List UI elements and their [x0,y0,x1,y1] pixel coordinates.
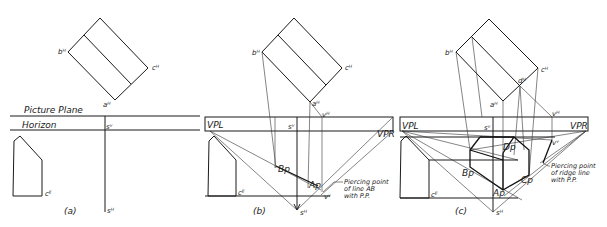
label-c-e: cᴱ [431,191,438,199]
label-v-v: vᵛ [324,193,331,201]
label-vpl: VPL [402,121,419,131]
label-bp: Bp [462,168,474,178]
label-c-h: cᴴ [541,66,549,74]
label-c-e: cᴱ [45,190,52,198]
picture-plane-band [400,117,588,131]
caption-b: (b) [253,206,266,216]
label-s-h: sᴴ [496,209,504,217]
horizon-label: Horizon [22,120,57,130]
label-dp: Dp [503,142,516,152]
label-s-v: sᵛ [288,123,295,131]
note-line-3: with P.P. [344,192,370,200]
caption-c: (c) [455,206,467,216]
label-b-h: bᴴ [58,48,66,56]
label-s-v: sᵛ [484,124,491,132]
label-b-h: bᴴ [445,49,453,57]
perspective-diagram: bᴴ cᴴ aᴴ Picture Plane Horizon sᵛ sᴴ cᴱ … [0,0,607,227]
label-s-v: sᵛ [106,123,113,131]
panel-a: bᴴ cᴴ aᴴ Picture Plane Horizon sᵛ sᴴ cᴱ … [10,18,200,216]
label-d-h: dᴴ [518,77,526,85]
plan-view [262,18,342,102]
caption-a: (a) [64,206,77,216]
label-cp: Cp [521,175,533,185]
picture-plane-label: Picture Plane [24,105,83,115]
elevation-view [400,136,429,198]
picture-plane-band [205,117,393,131]
label-v-v: vᵛ [552,139,559,147]
elevation-view [13,136,42,196]
label-s-h: sᴴ [300,209,308,217]
note-line-3: with P.P. [551,176,577,184]
label-bp: Bp [278,164,290,174]
label-ap: Ap [492,188,505,198]
label-v-h: vᴴ [322,111,330,119]
label-c-e: cᴱ [238,189,245,197]
label-s-h: sᴴ [107,207,115,215]
plan-view [456,19,538,101]
elevation-view [208,136,236,196]
label-a-h: aᴴ [490,101,498,109]
panel-b: bᴴ cᴴ aᴴ vᴴ VPL VPR sᵛ cᴱ Bp Ap vᵛ sᴴ [205,18,395,217]
label-a-h: aᴴ [103,101,111,109]
plan-view [68,18,148,100]
label-b-h: bᴴ [252,49,260,57]
label-vpr: VPR [570,121,588,131]
label-ap: Ap [308,180,321,190]
label-c-h: cᴴ [152,64,160,72]
label-vpl: VPL [207,120,224,130]
label-c-h: cᴴ [345,64,353,72]
label-a-h: aᴴ [312,100,320,108]
panel-c: bᴴ cᴴ aᴴ dᴴ vᴴ VPL VPR sᵛ [400,19,596,217]
